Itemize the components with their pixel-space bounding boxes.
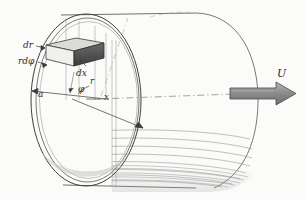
label-dr: dr <box>23 41 33 50</box>
label-r: r <box>90 77 94 86</box>
label-a: a <box>38 90 43 99</box>
label-x: x <box>104 93 109 102</box>
label-dx: dx <box>76 69 87 78</box>
diagram-canvas <box>0 0 305 200</box>
label-U: U <box>277 68 286 79</box>
label-r-dphi: rdφ <box>18 57 34 66</box>
radial-direction-arrow <box>72 99 143 128</box>
cylinder-control-volume-figure: dr rdφ dx a φ r x U <box>0 0 305 200</box>
free-stream-velocity-arrow <box>230 82 296 105</box>
label-phi: φ <box>78 85 84 94</box>
differential-volume-element-cuboid <box>46 38 104 66</box>
